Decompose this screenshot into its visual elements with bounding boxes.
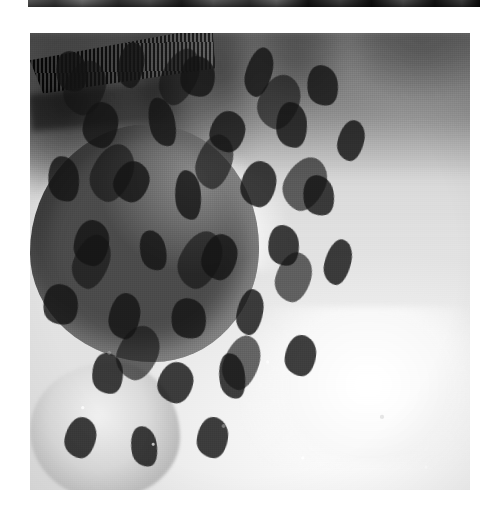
snow-texture [30,33,470,490]
bird-photograph [30,33,470,490]
scanned-page [0,0,489,512]
previous-figure-fragment [28,0,480,7]
fragment-shading [28,0,480,7]
